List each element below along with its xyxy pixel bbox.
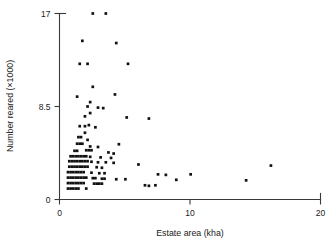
- data-point: [69, 182, 72, 185]
- data-point: [115, 178, 118, 181]
- data-point: [112, 162, 115, 165]
- data-point: [86, 160, 89, 163]
- data-point: [80, 176, 83, 179]
- data-point: [73, 149, 76, 152]
- data-point: [72, 176, 75, 179]
- data-point: [78, 142, 81, 145]
- scatter-plot-figure: 08.517 01020 Estate area (kha) Number re…: [0, 0, 335, 246]
- data-point: [127, 62, 130, 65]
- chart-canvas: 08.517 01020 Estate area (kha) Number re…: [0, 0, 335, 246]
- data-point: [80, 171, 83, 174]
- data-point: [74, 176, 77, 179]
- data-point: [67, 182, 70, 185]
- data-point: [88, 149, 91, 152]
- data-point: [77, 136, 80, 139]
- data-point: [85, 187, 88, 190]
- data-point: [80, 155, 83, 158]
- data-point: [86, 165, 89, 168]
- data-point: [67, 171, 70, 174]
- data-point: [93, 182, 96, 185]
- data-point: [67, 176, 70, 179]
- data-point: [82, 171, 85, 174]
- data-point: [78, 165, 81, 168]
- data-point: [104, 161, 107, 164]
- data-point: [89, 101, 92, 104]
- x-axis-ticks: 01020: [57, 200, 325, 218]
- data-point: [71, 165, 74, 168]
- data-point: [104, 12, 107, 15]
- data-point: [74, 182, 77, 185]
- data-point: [99, 156, 102, 159]
- data-point: [76, 165, 79, 168]
- y-tick-label: 17: [41, 9, 51, 19]
- data-point: [84, 165, 87, 168]
- data-point: [82, 182, 85, 185]
- data-point: [245, 179, 248, 182]
- data-point: [68, 165, 71, 168]
- data-point: [85, 155, 88, 158]
- data-point: [85, 149, 88, 152]
- data-point: [81, 165, 84, 168]
- data-point: [69, 155, 72, 158]
- data-point: [73, 160, 76, 163]
- data-point: [154, 184, 157, 187]
- y-axis-ticks: 08.517: [39, 9, 60, 205]
- data-point: [103, 172, 106, 175]
- data-point: [78, 125, 81, 128]
- data-point: [86, 105, 89, 108]
- data-point: [72, 187, 75, 190]
- data-point: [175, 178, 178, 181]
- data-point: [80, 182, 83, 185]
- data-point: [144, 184, 147, 187]
- data-point: [91, 12, 94, 15]
- data-point: [77, 155, 80, 158]
- data-point: [78, 160, 81, 163]
- data-point: [103, 177, 106, 180]
- data-point: [69, 187, 72, 190]
- data-point: [110, 157, 113, 160]
- x-tick-label: 20: [316, 208, 326, 218]
- data-point: [88, 124, 91, 127]
- data-point: [77, 182, 80, 185]
- data-point: [76, 95, 79, 98]
- data-point: [189, 173, 192, 176]
- data-point: [101, 166, 104, 169]
- data-point: [97, 146, 100, 149]
- data-point: [97, 106, 100, 109]
- data-point: [95, 166, 98, 169]
- x-tick-label: 10: [185, 208, 195, 218]
- data-point: [89, 145, 92, 148]
- data-point: [90, 149, 93, 152]
- data-point: [82, 155, 85, 158]
- data-point: [90, 171, 93, 174]
- data-point: [95, 182, 98, 185]
- x-axis-title: Estate area (kha): [156, 228, 224, 238]
- data-point: [81, 160, 84, 163]
- data-point: [72, 155, 75, 158]
- data-point: [69, 176, 72, 179]
- data-point: [114, 93, 117, 96]
- data-point: [137, 163, 140, 166]
- y-tick-label: 8.5: [39, 102, 51, 112]
- data-point: [76, 142, 79, 145]
- data-point: [118, 143, 121, 146]
- data-point: [76, 160, 79, 163]
- data-point: [77, 171, 80, 174]
- data-point: [112, 152, 115, 155]
- data-points: [67, 12, 273, 190]
- data-point: [72, 171, 75, 174]
- data-point: [80, 136, 83, 139]
- data-point: [157, 173, 160, 176]
- data-point: [73, 165, 76, 168]
- data-point: [74, 155, 77, 158]
- data-point: [98, 172, 101, 175]
- data-point: [86, 62, 89, 65]
- data-point: [67, 187, 70, 190]
- data-point: [84, 115, 87, 118]
- x-tick-label: 0: [57, 208, 62, 218]
- data-point: [77, 176, 80, 179]
- data-point: [148, 184, 151, 187]
- data-point: [89, 155, 92, 158]
- data-point: [101, 177, 104, 180]
- data-point: [98, 182, 101, 185]
